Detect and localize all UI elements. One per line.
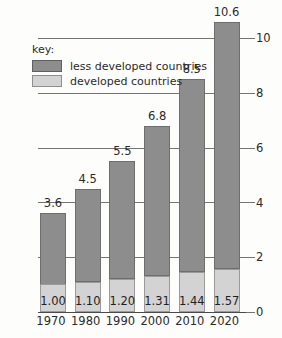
legend-label: less developed countries — [70, 61, 207, 72]
bar-total-label: 3.6 — [44, 198, 62, 210]
tick-right-2 — [246, 257, 255, 258]
y-axis-label-right: 8 — [256, 88, 282, 100]
bar-segment-less-developed — [109, 161, 135, 279]
chart-legend: key: less developed countries developed … — [32, 44, 207, 90]
bar-1970[interactable]: 3.6 1.00 — [40, 213, 66, 312]
tick-right-10 — [246, 38, 255, 39]
bar-developed-label: 1.20 — [110, 296, 136, 308]
tick-right-8 — [246, 93, 255, 94]
bar-total-label: 6.8 — [148, 111, 166, 123]
bar-developed-label: 1.00 — [40, 296, 66, 308]
bar-developed-label: 1.44 — [179, 296, 205, 308]
tick-right-6 — [246, 148, 255, 149]
bar-total-label: 5.5 — [113, 146, 131, 158]
bar-segment-less-developed — [214, 22, 240, 269]
bar-1980[interactable]: 4.5 1.10 — [75, 189, 101, 312]
y-axis-label-right: 10 — [256, 33, 282, 45]
legend-item-developed: developed countries — [32, 75, 207, 87]
legend-item-less-developed: less developed countries — [32, 60, 207, 72]
bar-developed-label: 1.31 — [144, 296, 170, 308]
bar-segment-less-developed — [75, 189, 101, 282]
x-axis-tick-2020: 2020 — [199, 316, 251, 328]
bar-segment-less-developed — [40, 213, 66, 285]
legend-label: developed countries — [70, 76, 182, 87]
legend-swatch-developed-icon — [32, 75, 62, 87]
bar-segment-less-developed — [144, 126, 170, 276]
stacked-bar-chart: 10 8 6 4 2 0 10 8 6 4 2 0 3.6 1.00 — [0, 0, 282, 338]
tick-right-0 — [246, 312, 255, 313]
bar-total-label: 4.5 — [79, 174, 97, 186]
tick-right-4 — [246, 202, 255, 203]
y-axis-label-right: 4 — [256, 198, 282, 210]
bar-total-label: 10.6 — [214, 7, 240, 19]
y-axis-label-right: 2 — [256, 252, 282, 264]
bar-developed-label: 1.57 — [214, 296, 240, 308]
bar-developed-label: 1.10 — [75, 296, 101, 308]
axis-baseline — [38, 312, 246, 313]
bar-2010[interactable]: 8.5 1.44 — [179, 79, 205, 312]
legend-swatch-less-developed-icon — [32, 60, 62, 72]
y-axis-label-right: 0 — [256, 307, 282, 319]
bar-2020[interactable]: 10.6 1.57 — [214, 22, 240, 312]
legend-title: key: — [32, 44, 207, 55]
bar-1990[interactable]: 5.5 1.20 — [109, 161, 135, 312]
y-axis-label-right: 6 — [256, 143, 282, 155]
bar-segment-less-developed — [179, 79, 205, 272]
bar-2000[interactable]: 6.8 1.31 — [144, 126, 170, 312]
